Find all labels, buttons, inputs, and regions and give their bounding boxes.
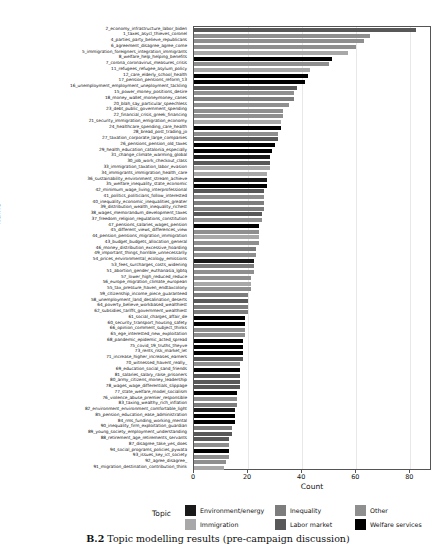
gridline <box>356 27 357 469</box>
bar[interactable] <box>194 264 254 268</box>
legend-item[interactable]: Other <box>355 504 388 517</box>
legend-item[interactable]: Immigration <box>185 518 238 531</box>
legend-item[interactable]: Welfare services <box>355 518 422 531</box>
bar[interactable] <box>194 114 283 118</box>
y-axis-tick-label: 11_refugees_refugee_asylum_policy <box>111 67 187 72</box>
bar[interactable] <box>194 426 232 430</box>
bar[interactable] <box>194 241 259 245</box>
bar[interactable] <box>194 305 248 309</box>
bar[interactable] <box>194 253 256 257</box>
bar[interactable] <box>194 132 278 136</box>
bar[interactable] <box>194 230 259 234</box>
bar[interactable] <box>194 460 226 464</box>
bar[interactable] <box>194 362 240 366</box>
bar[interactable] <box>194 443 229 447</box>
bar[interactable] <box>194 149 272 153</box>
caption-number: B.2 <box>86 533 104 544</box>
bar[interactable] <box>194 293 248 297</box>
y-axis-tick-label: 26_pensions_pension_old_taxes <box>120 142 187 147</box>
y-axis-tick-label: 70_witnessed_havent_really_ <box>126 361 187 366</box>
legend-swatch <box>355 519 366 530</box>
legend-swatch <box>275 519 286 530</box>
bar[interactable] <box>194 397 237 401</box>
bar[interactable] <box>194 385 240 389</box>
bar[interactable] <box>194 57 332 61</box>
bar[interactable] <box>194 74 308 78</box>
bar[interactable] <box>194 218 262 222</box>
bar[interactable] <box>194 172 267 176</box>
bar[interactable] <box>194 28 416 32</box>
bar[interactable] <box>194 62 329 66</box>
y-axis-title: Name <box>2 193 10 214</box>
bar[interactable] <box>194 437 229 441</box>
bar[interactable] <box>194 91 294 95</box>
legend-item[interactable]: Inequality <box>275 504 321 517</box>
bar[interactable] <box>194 368 240 372</box>
bar[interactable] <box>194 161 270 165</box>
legend-item[interactable]: Labor market <box>275 518 332 531</box>
bar[interactable] <box>194 391 237 395</box>
bar[interactable] <box>194 270 254 274</box>
bar[interactable] <box>194 380 240 384</box>
bar[interactable] <box>194 328 245 332</box>
bar[interactable] <box>194 143 275 147</box>
bar[interactable] <box>194 201 264 205</box>
y-axis-tick-label: 69_education_social_sand_friends <box>116 367 187 372</box>
bar[interactable] <box>194 259 254 263</box>
bar[interactable] <box>194 247 256 251</box>
bar[interactable] <box>194 195 264 199</box>
y-axis-tick-label: 33_immigration_taxation_labor_evasion <box>103 165 187 170</box>
bar[interactable] <box>194 432 232 436</box>
gridline <box>302 27 303 469</box>
legend-item[interactable]: Environment/energy <box>185 504 264 517</box>
bar[interactable] <box>194 455 229 459</box>
bar[interactable] <box>194 80 305 84</box>
bar[interactable] <box>194 166 270 170</box>
bar[interactable] <box>194 97 294 101</box>
bar[interactable] <box>194 408 235 412</box>
bar[interactable] <box>194 345 243 349</box>
bar[interactable] <box>194 126 281 130</box>
bar[interactable] <box>194 184 267 188</box>
bar[interactable] <box>194 155 270 159</box>
bar[interactable] <box>194 235 259 239</box>
bar[interactable] <box>194 299 248 303</box>
bar[interactable] <box>194 120 281 124</box>
bar[interactable] <box>194 189 264 193</box>
bar[interactable] <box>194 109 283 113</box>
bar[interactable] <box>194 403 237 407</box>
bar[interactable] <box>194 276 251 280</box>
x-axis-title: Count <box>301 482 323 491</box>
bar[interactable] <box>194 224 259 228</box>
bar[interactable] <box>194 282 251 286</box>
bar[interactable] <box>194 316 245 320</box>
bar[interactable] <box>194 212 262 216</box>
bar[interactable] <box>194 420 235 424</box>
y-axis-tick-label: 88_retirement_age_retirements_servants <box>101 436 187 441</box>
bar[interactable] <box>194 39 364 43</box>
legend-label: Environment/energy <box>200 507 264 514</box>
bar[interactable] <box>194 414 235 418</box>
bar[interactable] <box>194 86 297 90</box>
bar[interactable] <box>194 103 289 107</box>
bar[interactable] <box>194 287 251 291</box>
y-axis-tick-label: 85_pension_education_ease_administration <box>95 413 187 418</box>
bar[interactable] <box>194 51 348 55</box>
bar[interactable] <box>194 34 370 38</box>
bar[interactable] <box>194 449 229 453</box>
bar[interactable] <box>194 374 240 378</box>
y-axis-tick-label: 18_money_wallet_moneymoney_canes <box>105 96 187 101</box>
bar[interactable] <box>194 339 243 343</box>
bar[interactable] <box>194 45 356 49</box>
bar[interactable] <box>194 357 243 361</box>
bar[interactable] <box>194 137 278 141</box>
bar[interactable] <box>194 322 245 326</box>
bar[interactable] <box>194 68 310 72</box>
bar[interactable] <box>194 333 245 337</box>
bar[interactable] <box>194 178 267 182</box>
bar[interactable] <box>194 310 248 314</box>
bar[interactable] <box>194 207 264 211</box>
bar[interactable] <box>194 351 243 355</box>
chart-plot-area: Name 2_economy_infrastructure_labor_bide… <box>0 8 436 470</box>
legend-swatch <box>355 505 366 516</box>
